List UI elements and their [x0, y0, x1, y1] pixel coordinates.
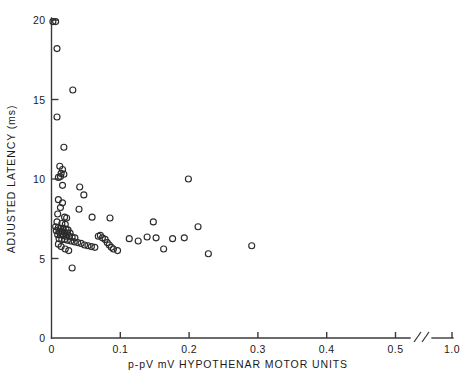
data-point [60, 182, 66, 188]
data-point [107, 215, 113, 221]
ticks-group [52, 20, 453, 338]
data-point [249, 243, 255, 249]
data-point [81, 192, 87, 198]
data-point [61, 144, 67, 150]
data-point [135, 238, 141, 244]
y-tick-label-2: 10 [33, 173, 45, 185]
data-point [55, 211, 61, 217]
axes-group [52, 18, 454, 342]
scatter-plot-figure: 00.10.20.30.40.51.005101520 p-pV mV HYPO… [0, 0, 470, 380]
data-point [150, 219, 156, 225]
data-point [54, 114, 60, 120]
chart-canvas: 00.10.20.30.40.51.005101520 p-pV mV HYPO… [0, 0, 470, 380]
axis-break-slash-2 [422, 332, 429, 342]
y-tick-label-1: 5 [39, 253, 45, 265]
data-point [195, 224, 201, 230]
x-tick-label-4: 0.4 [319, 343, 335, 355]
data-point [181, 235, 187, 241]
axis-break-slash-1 [414, 332, 421, 342]
data-point [170, 236, 176, 242]
data-point [69, 265, 75, 271]
data-point [70, 87, 76, 93]
x-tick-label-2: 0.2 [181, 343, 197, 355]
x-tick-label-1: 0.1 [112, 343, 128, 355]
data-point [77, 184, 83, 190]
x-tick-label-0: 0 [48, 343, 54, 355]
x-tick-label-5: 0.5 [388, 343, 404, 355]
y-tick-label-3: 15 [33, 94, 45, 106]
y-tick-label-0: 0 [39, 332, 45, 344]
y-tick-label-4: 20 [33, 14, 45, 26]
data-point [185, 176, 191, 182]
data-point [126, 236, 132, 242]
data-point [55, 197, 61, 203]
data-point [54, 46, 60, 52]
data-point [161, 246, 167, 252]
y-axis-title: ADJUSTED LATENCY (ms) [5, 105, 17, 254]
data-point [205, 251, 211, 257]
data-point [153, 235, 159, 241]
data-points-group [50, 19, 255, 271]
tick-labels-group: 00.10.20.30.40.51.005101520 [33, 14, 460, 355]
x-tick-label-6: 1.0 [444, 343, 460, 355]
x-axis-title: p-pV mV HYPOTHENAR MOTOR UNITS [128, 358, 348, 370]
x-tick-label-3: 0.3 [250, 343, 266, 355]
data-point [89, 214, 95, 220]
data-point [144, 234, 150, 240]
data-point [76, 206, 82, 212]
